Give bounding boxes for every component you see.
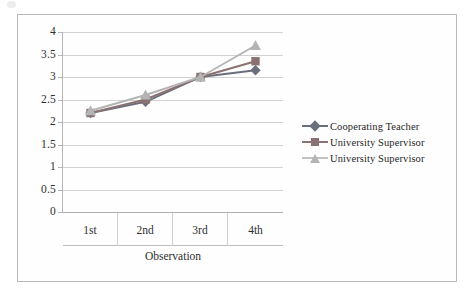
y-axis-tick-label: 0 <box>14 206 56 217</box>
legend-item-cooperating-teacher[interactable]: Cooperating Teacher <box>302 118 452 134</box>
y-axis-tick-label: 1.5 <box>14 139 56 150</box>
x-axis-category-band: 1st2nd3rd4th <box>63 213 283 246</box>
y-axis-tick <box>58 167 63 168</box>
gridline <box>63 77 283 78</box>
y-axis-tick <box>58 100 63 101</box>
x-axis-category-label: 1st <box>63 213 118 246</box>
x-axis-category-label: 2nd <box>118 213 173 246</box>
y-axis-tick-label: 2.5 <box>14 94 56 105</box>
y-axis-tick <box>58 122 63 123</box>
y-axis-tick-label: 0.5 <box>14 184 56 195</box>
y-axis-tick <box>58 77 63 78</box>
y-axis-tick <box>58 190 63 191</box>
legend-item-university-supervisor-square[interactable]: University Supervisor <box>302 134 452 150</box>
x-axis-title: Observation <box>63 250 283 262</box>
legend-item-university-supervisor-triangle[interactable]: University Supervisor <box>302 150 452 166</box>
gridline <box>63 32 283 33</box>
legend-label: University Supervisor <box>330 153 425 164</box>
legend-marker-triangle-icon <box>302 151 328 165</box>
y-axis-tick-label: 2 <box>14 116 56 127</box>
x-axis-category-label: 3rd <box>173 213 228 246</box>
y-axis-tick <box>58 32 63 33</box>
gridline <box>63 145 283 146</box>
y-axis-tick-label: 4 <box>14 26 56 37</box>
gridline <box>63 55 283 56</box>
x-axis-category-label: 4th <box>228 213 283 246</box>
gridline <box>63 167 283 168</box>
legend-label: University Supervisor <box>330 137 425 148</box>
chart-legend: Cooperating Teacher University Superviso… <box>302 118 452 166</box>
legend-marker-square-icon <box>302 135 328 149</box>
gridline <box>63 122 283 123</box>
y-axis-tick-label: 3.5 <box>14 49 56 60</box>
y-axis-labels: 43.532.521.510.50 <box>10 0 56 298</box>
y-axis-tick <box>58 55 63 56</box>
y-axis-tick-label: 3 <box>14 71 56 82</box>
gridline <box>63 100 283 101</box>
legend-marker-diamond-icon <box>302 119 328 133</box>
gridline <box>63 190 283 191</box>
legend-label: Cooperating Teacher <box>330 121 419 132</box>
y-axis-tick <box>58 212 63 213</box>
plot-area <box>63 32 283 212</box>
y-axis-tick <box>58 145 63 146</box>
y-axis-tick-label: 1 <box>14 161 56 172</box>
